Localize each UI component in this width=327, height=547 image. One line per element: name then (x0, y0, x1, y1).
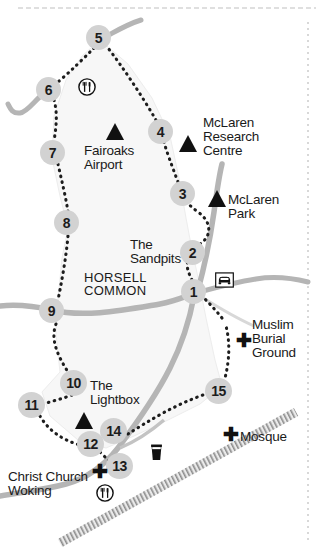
map-marker-9[interactable]: 9 (39, 298, 64, 323)
map-marker-2[interactable]: 2 (180, 240, 205, 265)
label-the-sandpits: The Sandpits (130, 238, 181, 266)
cross-mosque-icon: ✚ (223, 425, 239, 444)
restaurant-icon[interactable] (78, 78, 96, 96)
label-mclaren-research-centre: McLaren Research Centre (203, 116, 259, 157)
map-marker-14[interactable]: 14 (100, 418, 127, 444)
label-muslim-burial-ground: Muslim Burial Ground (252, 318, 296, 359)
cross-muslim-burial-ground-icon: ✚ (236, 331, 252, 350)
label-mclaren-park: McLaren Park (228, 193, 279, 221)
restaurant-icon-2[interactable] (96, 484, 114, 502)
map-marker-5[interactable]: 5 (86, 25, 111, 50)
map-marker-13[interactable]: 13 (106, 453, 133, 479)
road-east-from-junction (196, 278, 308, 293)
map-marker-7[interactable]: 7 (40, 140, 65, 165)
label-the-lightbox: The Lightbox (90, 379, 139, 407)
trail-15-burial (224, 326, 229, 382)
map-marker-6[interactable]: 6 (36, 77, 61, 102)
map-marker-15[interactable]: 15 (205, 378, 232, 404)
cross-christ-church-icon: ✚ (92, 462, 108, 481)
road-minor-se (200, 296, 254, 326)
map-marker-3[interactable]: 3 (170, 181, 195, 206)
car-park-icon[interactable] (215, 272, 234, 288)
pub-icon[interactable] (150, 444, 163, 461)
map-marker-11[interactable]: 11 (18, 392, 45, 418)
label-fairoaks-airport: Fairoaks Airport (84, 144, 134, 172)
triangle-mclaren-park (208, 190, 226, 207)
label-mosque: Mosque (240, 430, 287, 444)
label-horsell-common: HORSELL COMMON (84, 271, 147, 298)
map-container: 5 6 7 8 9 10 11 12 13 14 15 4 3 2 1 Fair… (0, 0, 327, 547)
map-marker-10[interactable]: 10 (60, 370, 87, 396)
road-north-spur (107, 20, 141, 36)
map-marker-1[interactable]: 1 (181, 279, 206, 304)
map-marker-4[interactable]: 4 (148, 119, 173, 144)
triangle-mclaren-research-centre (179, 135, 197, 152)
map-marker-8[interactable]: 8 (54, 210, 79, 235)
label-christ-church-woking: Christ Church Woking (8, 470, 88, 498)
